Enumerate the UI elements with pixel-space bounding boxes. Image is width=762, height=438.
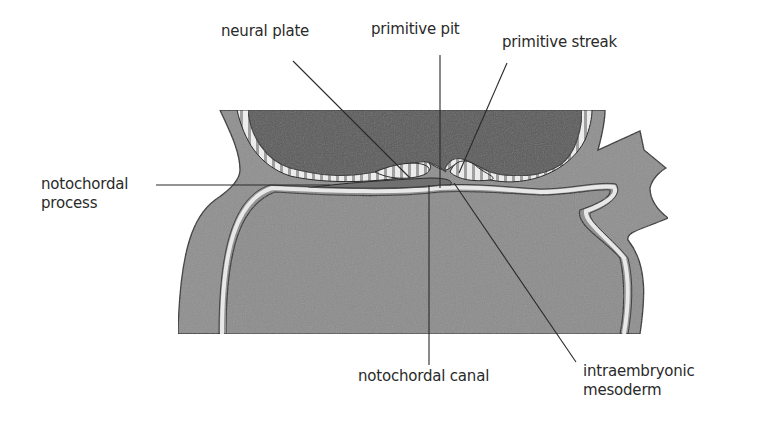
- label-text: notochordal canal: [358, 367, 489, 386]
- label-notochordal-process: notochordal process: [41, 175, 128, 213]
- label-text: primitive pit: [371, 20, 460, 39]
- label-text: neural plate: [221, 22, 309, 41]
- embryo-diagram: neural plate primitive pit primitive str…: [0, 0, 762, 438]
- label-primitive-streak: primitive streak: [502, 33, 617, 52]
- label-neural-plate: neural plate: [221, 22, 309, 41]
- label-text: primitive streak: [502, 33, 617, 52]
- label-text: notochordal: [41, 175, 128, 194]
- yolk-sac: [226, 190, 624, 334]
- label-text: mesoderm: [583, 381, 695, 400]
- label-text: process: [41, 194, 128, 213]
- label-text: intraembryonic: [583, 362, 695, 381]
- label-intraembryonic-mesoderm: intraembryonic mesoderm: [583, 362, 695, 400]
- label-primitive-pit: primitive pit: [371, 20, 460, 39]
- label-notochordal-canal: notochordal canal: [358, 367, 489, 386]
